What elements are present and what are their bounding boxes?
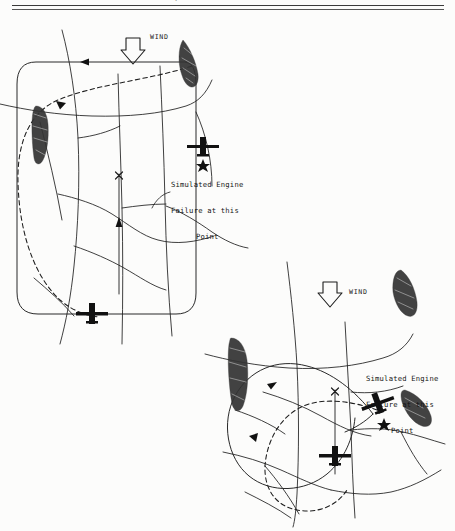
wind-label: WIND <box>349 288 368 296</box>
pattern-direction-arrow <box>80 59 89 66</box>
callout-line-3: Point <box>171 233 243 242</box>
glide-path-dashed <box>18 66 192 317</box>
simulated-engine-failure-callout: Simulated Engine Failure at this Point <box>171 164 243 259</box>
pattern-direction-arrow <box>267 382 277 390</box>
landmark-wooded-area-northeast <box>393 270 417 316</box>
landmark-wooded-area-west <box>228 338 248 411</box>
callout-line-3: Point <box>366 427 438 436</box>
header-rule-upper <box>12 5 444 6</box>
callout-leader-line <box>152 192 170 208</box>
wind-label: WIND <box>150 33 169 41</box>
manual-page: g <box>0 0 455 531</box>
callout-line-1: Simulated Engine <box>366 375 438 384</box>
aircraft-symbol-failure-point <box>187 137 219 157</box>
callout-line-2: Failure at this <box>171 207 243 216</box>
wind-arrow-icon <box>318 282 342 307</box>
clipped-heading-fragment: g <box>172 0 178 1</box>
aircraft-symbol-final <box>76 303 108 324</box>
traffic-pattern-path <box>17 62 196 314</box>
wind-arrow-icon <box>121 38 145 64</box>
landmark-wooded-area-west <box>32 106 48 164</box>
glide-path-arrow <box>56 101 66 110</box>
landmark-wooded-area-northeast <box>179 40 198 87</box>
simulated-engine-failure-callout: Simulated Engine Failure at this Point <box>366 358 438 453</box>
callout-line-1: Simulated Engine <box>171 181 243 190</box>
pattern-direction-arrow-2 <box>249 433 258 442</box>
callout-line-2: Failure at this <box>366 401 438 410</box>
header-rule-lower <box>12 9 444 10</box>
page-header-rule: g <box>0 0 455 14</box>
